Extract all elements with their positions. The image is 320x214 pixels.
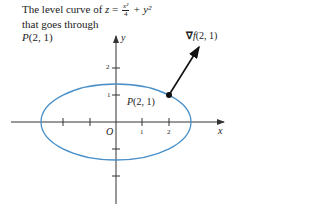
origin-label: O [106, 126, 113, 137]
gradient-label: ∇f(2, 1) [186, 30, 217, 41]
x-tick-label-1: 1 [140, 128, 144, 136]
x-axis-label: x [218, 125, 222, 136]
point-p-label: P(2, 1) [127, 96, 155, 107]
x-tick-label-2: 2 [167, 128, 171, 136]
point-p-marker [166, 92, 172, 98]
gradient-vector-arrow [169, 47, 199, 95]
y-axis-label: y [121, 32, 125, 43]
y-tick-label-2: 2 [106, 63, 110, 71]
y-tick-label-1: 1 [107, 91, 111, 99]
